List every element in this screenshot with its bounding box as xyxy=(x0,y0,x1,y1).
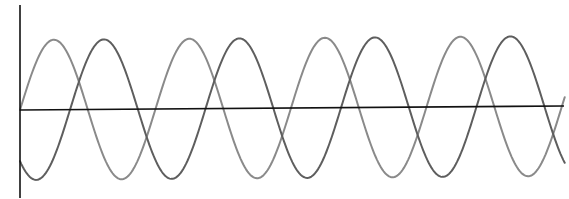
chart xyxy=(0,0,569,199)
